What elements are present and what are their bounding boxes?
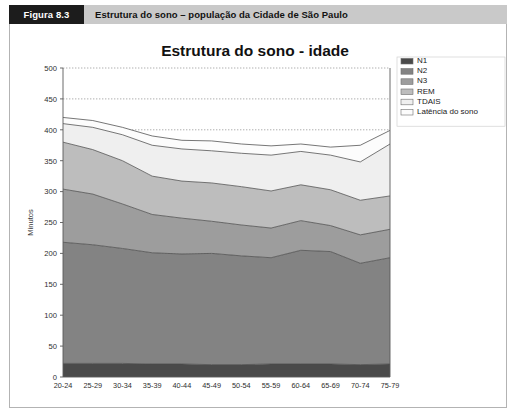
x-tick-label: 60-64: [291, 381, 310, 390]
chart-legend: N1N2N3REMTDAISLatência do sono: [397, 56, 505, 126]
legend-swatch-n1: [401, 58, 413, 64]
x-tick-label: 55-59: [262, 381, 281, 390]
x-tick-label: 35-39: [143, 381, 162, 390]
x-tick-label: 50-54: [232, 381, 251, 390]
legend-label-latência-do-sono: Latência do sono: [417, 107, 478, 116]
legend-swatch-tdais: [401, 99, 413, 105]
y-tick-label: 350: [44, 157, 57, 166]
x-tick-label: 65-69: [321, 381, 340, 390]
x-axis-ticks: 20-2425-2930-3435-3940-4445-4950-5455-59…: [54, 381, 400, 390]
y-axis-ticks: 050100150200250300350400450500: [44, 64, 63, 382]
legend-swatch-n2: [401, 69, 413, 75]
y-tick-label: 100: [44, 311, 57, 320]
legend-swatch-rem: [401, 89, 413, 95]
y-tick-label: 500: [44, 64, 57, 73]
x-tick-label: 45-49: [202, 381, 221, 390]
x-tick-label: 70-74: [351, 381, 370, 390]
area-series-n2: [63, 242, 390, 364]
legend-label-n2: N2: [417, 66, 428, 75]
x-tick-label: 20-24: [54, 381, 73, 390]
legend-label-n3: N3: [417, 76, 428, 85]
x-tick-label: 25-29: [83, 381, 102, 390]
y-tick-label: 150: [44, 280, 57, 289]
y-axis-label: Minutos: [26, 209, 35, 236]
area-series-n1: [63, 363, 390, 377]
y-tick-label: 50: [49, 342, 57, 351]
legend-swatch-latência-do-sono: [401, 109, 413, 115]
x-tick-label: 40-44: [173, 381, 192, 390]
chart-title: Estrutura do sono - idade: [161, 42, 349, 59]
figure-page: Figura 8.3 Estrutura do sono – população…: [0, 0, 516, 416]
legend-label-n1: N1: [417, 56, 428, 65]
y-tick-label: 250: [44, 218, 57, 227]
chart-svg: Estrutura do sono - idade 05010015020025…: [0, 0, 516, 416]
x-tick-label: 75-79: [381, 381, 400, 390]
legend-label-rem: REM: [417, 87, 435, 96]
legend-label-tdais: TDAIS: [417, 97, 441, 106]
y-tick-label: 400: [44, 126, 57, 135]
x-tick-label: 30-34: [113, 381, 132, 390]
sleep-structure-chart: Estrutura do sono - idade 05010015020025…: [0, 0, 516, 416]
y-tick-label: 450: [44, 95, 57, 104]
y-tick-label: 200: [44, 249, 57, 258]
y-tick-label: 300: [44, 187, 57, 196]
legend-swatch-n3: [401, 79, 413, 85]
